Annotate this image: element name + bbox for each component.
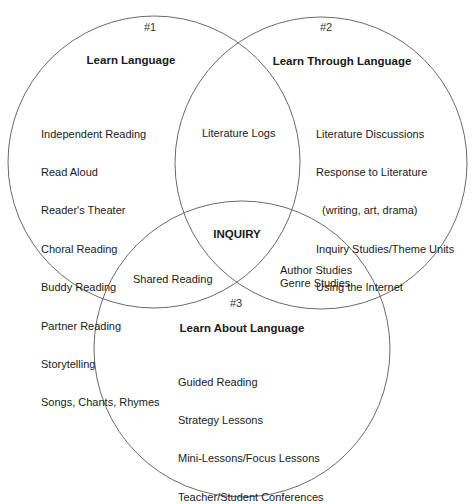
list-item: Choral Reading xyxy=(41,243,160,256)
overlap-c1-c3-label: Shared Reading xyxy=(133,273,213,286)
list-item: (writing, art, drama) xyxy=(316,204,454,217)
circle-3-number: #3 xyxy=(230,297,242,310)
circle-1-list: Independent Reading Read Aloud Reader's … xyxy=(41,102,160,422)
circle-1-number: #1 xyxy=(144,21,156,34)
list-item: Read Aloud xyxy=(41,166,160,179)
list-item: Literature Discussions xyxy=(316,128,454,141)
overlap-c2-c3-label-1: Author Studies xyxy=(280,264,352,277)
list-item: Guided Reading xyxy=(178,376,324,389)
list-item: Strategy Lessons xyxy=(178,414,324,427)
circle-3-title: Learn About Language xyxy=(180,322,305,335)
list-item: Storytelling xyxy=(41,358,160,371)
list-item: Reader's Theater xyxy=(41,204,160,217)
list-item: Inquiry Studies/Theme Units xyxy=(316,243,454,256)
circle-1-title: Learn Language xyxy=(87,54,176,67)
circle-3-list: Guided Reading Strategy Lessons Mini-Les… xyxy=(178,350,324,504)
list-item: Teacher/Student Conferences xyxy=(178,491,324,504)
circle-2-title: Learn Through Language xyxy=(273,55,412,68)
list-item: Partner Reading xyxy=(41,320,160,333)
center-inquiry-label: INQUIRY xyxy=(213,228,261,241)
list-item: Songs, Chants, Rhymes xyxy=(41,396,160,409)
list-item: Independent Reading xyxy=(41,128,160,141)
overlap-c1-c2-label: Literature Logs xyxy=(202,127,275,140)
overlap-c2-c3-label-2: Genre Studies xyxy=(280,277,350,290)
list-item: Response to Literature xyxy=(316,166,454,179)
list-item: Mini-Lessons/Focus Lessons xyxy=(178,452,324,465)
circle-2-number: #2 xyxy=(320,21,332,34)
